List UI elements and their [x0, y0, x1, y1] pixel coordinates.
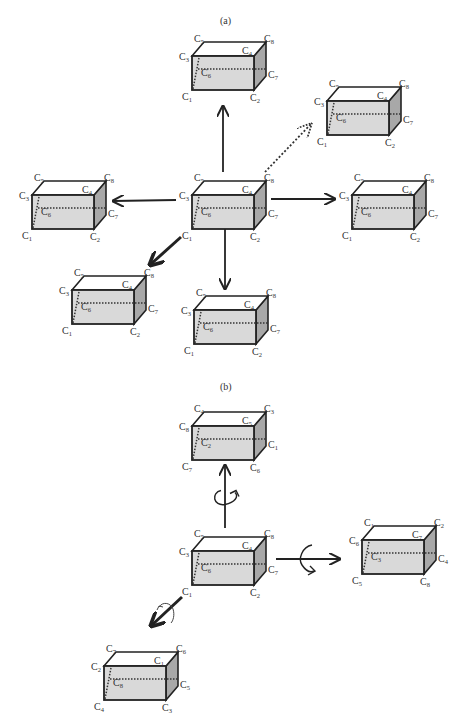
- vertex-label: C7: [270, 323, 281, 335]
- vertex-label: C2: [250, 231, 260, 243]
- vertex-label: C5: [329, 78, 339, 90]
- vertex-label: C8: [424, 172, 434, 184]
- vertex-label: C2: [385, 137, 395, 149]
- vertex-label: C5: [352, 575, 362, 587]
- box-a-center: C5C8C3C4C7C6C1C2: [179, 172, 279, 243]
- vertex-label: C3: [59, 285, 69, 297]
- vertex-label: C4: [194, 403, 205, 415]
- vertex-label: C5: [194, 33, 204, 45]
- vertex-label: C2: [91, 661, 101, 673]
- vertex-label: C2: [250, 587, 260, 599]
- box-a-top: C5C8C3C4C7C6C1C2: [179, 33, 279, 104]
- vertex-label: C5: [194, 528, 204, 540]
- vertex-label: C8: [420, 576, 430, 588]
- vertex-label: C7: [108, 208, 119, 220]
- vertex-label: C4: [94, 701, 105, 713]
- vertex-label: C1: [22, 230, 32, 242]
- vertex-label: C3: [19, 190, 29, 202]
- vertex-label: C5: [354, 172, 364, 184]
- vertex-label: C2: [250, 92, 260, 104]
- vertex-label: C2: [434, 517, 444, 529]
- boxes-layer: C5C8C3C4C7C6C1C2C5C8C3C4C7C6C1C2C5C8C3C4…: [19, 33, 449, 713]
- vertex-label: C5: [180, 679, 190, 691]
- vertex-label: C3: [179, 190, 189, 202]
- vertex-label: C1: [342, 230, 352, 242]
- vertex-label: C8: [264, 33, 274, 45]
- vertex-label: C3: [179, 51, 189, 63]
- panel-label-a: (a): [220, 15, 231, 27]
- vertex-label: C7: [428, 208, 439, 220]
- vertex-label: C2: [252, 346, 262, 358]
- vertex-label: C1: [184, 345, 194, 357]
- vertex-label: C3: [162, 702, 172, 713]
- vertex-label: C5: [196, 287, 206, 299]
- arrow-a-downleft: [151, 237, 181, 264]
- arrow-b-right: [276, 545, 340, 575]
- vertex-label: C8: [264, 172, 274, 184]
- vertex-label: C7: [268, 208, 279, 220]
- vertex-label: C2: [90, 231, 100, 243]
- box-b-center: C5C8C3C4C7C6C1C2: [179, 528, 279, 599]
- arrow-a-left: [113, 200, 176, 201]
- vertex-label: C7: [268, 564, 279, 576]
- box-b-top: C4C3C8C5C1C2C7C6: [179, 403, 278, 474]
- vertex-label: C1: [182, 586, 192, 598]
- vertex-label: C1: [317, 136, 327, 148]
- vertex-label: C5: [194, 172, 204, 184]
- vertex-label: C5: [34, 172, 44, 184]
- vertex-label: C3: [179, 546, 189, 558]
- box-b-bottomleft: C7C6C2C1C5C8C4C3: [91, 643, 190, 713]
- box-a-down: C5C8C3C4C7C6C1C2: [181, 287, 281, 358]
- vertex-label: C7: [268, 69, 279, 81]
- vertex-label: C1: [268, 439, 278, 451]
- vertex-label: C4: [438, 553, 449, 565]
- vertex-label: C8: [104, 172, 114, 184]
- vertex-label: C2: [410, 231, 420, 243]
- vertex-label: C6: [349, 535, 360, 547]
- box-a-left: C5C8C3C4C7C6C1C2: [19, 172, 119, 243]
- vertex-label: C8: [399, 78, 409, 90]
- vertex-label: C3: [314, 96, 324, 108]
- vertex-label: C1: [182, 230, 192, 242]
- vertex-label: C3: [264, 403, 274, 415]
- panel-label-b: (b): [220, 381, 232, 393]
- arrow-a-upright: [265, 124, 311, 172]
- cube-orientation-diagram: (a) (b) C5C8C3C4C7C6C1C2C5C8C3C4C7C6C1C2…: [0, 0, 454, 713]
- vertex-label: C6: [176, 643, 187, 655]
- vertex-label: C8: [264, 528, 274, 540]
- arrow-b-up: [215, 465, 239, 528]
- vertex-label: C3: [339, 190, 349, 202]
- vertex-label: C6: [250, 462, 261, 474]
- box-a-upright: C5C8C3C4C7C6C1C2: [314, 78, 414, 149]
- vertex-label: C7: [182, 461, 193, 473]
- box-b-right: C1C2C6C7C4C3C5C8: [349, 517, 449, 588]
- vertex-label: C7: [106, 643, 117, 655]
- vertex-label: C7: [148, 303, 159, 315]
- vertex-label: C7: [403, 114, 414, 126]
- vertex-label: C8: [179, 421, 189, 433]
- box-a-right: C5C8C3C4C7C6C1C2: [339, 172, 439, 243]
- vertex-label: C8: [266, 287, 276, 299]
- vertex-label: C1: [182, 91, 192, 103]
- vertex-label: C1: [364, 517, 374, 529]
- vertex-label: C1: [62, 325, 72, 337]
- box-a-downleft: C5C8C3C4C7C6C1C2: [59, 267, 159, 338]
- arrow-b-downleft: [152, 597, 182, 625]
- vertex-label: C2: [130, 326, 140, 338]
- vertex-label: C8: [144, 267, 154, 279]
- vertex-label: C5: [74, 267, 84, 279]
- vertex-label: C3: [181, 305, 191, 317]
